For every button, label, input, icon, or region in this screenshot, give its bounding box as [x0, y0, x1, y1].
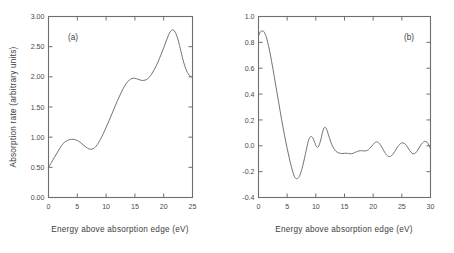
- panel-b-yticklabels: -0.4-0.20.00.20.40.60.81.0: [242, 13, 254, 202]
- x-tick-label: 20: [160, 203, 168, 211]
- panel-b-label: (b): [404, 33, 414, 42]
- panel-a-frame: [49, 17, 193, 198]
- panel-a-label: (a): [68, 33, 78, 42]
- y-tick-label: 0.4: [245, 91, 255, 99]
- x-tick-label: 20: [369, 203, 377, 211]
- y-tick-label: 0.00: [31, 194, 45, 202]
- panel-b: (b) Energy above absorption edge (eV) Di…: [227, 0, 454, 253]
- panel-a-curve: [49, 30, 193, 168]
- x-tick-label: 10: [312, 203, 320, 211]
- panel-a: (a) Energy above absorption edge (eV) Ab…: [0, 0, 227, 253]
- panel-b-xticks: [259, 17, 431, 198]
- y-tick-label: 0.2: [245, 117, 255, 125]
- panel-a-xlabel: Energy above absorption edge (eV): [51, 225, 189, 234]
- x-tick-label: 5: [285, 203, 289, 211]
- panel-b-frame: [259, 17, 431, 198]
- panel-a-xticks: [49, 17, 193, 198]
- panel-b-xlabel: Energy above absorption edge (eV): [275, 225, 413, 234]
- x-tick-label: 25: [189, 203, 197, 211]
- x-tick-label: 15: [341, 203, 349, 211]
- y-tick-label: -0.2: [242, 168, 254, 176]
- figure-container: (a) Energy above absorption edge (eV) Ab…: [0, 0, 454, 253]
- x-tick-label: 25: [398, 203, 406, 211]
- panel-a-svg: (a) Energy above absorption edge (eV) Ab…: [0, 0, 227, 253]
- y-tick-label: 1.50: [31, 104, 45, 112]
- y-tick-label: 2.00: [31, 73, 45, 81]
- x-tick-label: 10: [102, 203, 110, 211]
- y-tick-label: 2.50: [31, 43, 45, 51]
- panel-a-yticks: [49, 17, 193, 198]
- y-tick-label: 0.0: [245, 142, 255, 150]
- y-tick-label: 1.0: [245, 13, 255, 21]
- x-tick-label: 0: [257, 203, 261, 211]
- panel-a-xticklabels: 0510152025: [47, 203, 197, 211]
- x-tick-label: 30: [427, 203, 435, 211]
- y-tick-label: 0.8: [245, 39, 255, 47]
- panel-b-xticklabels: 051015202530: [257, 203, 435, 211]
- panel-b-axes: [259, 17, 431, 198]
- panel-a-axes: [49, 17, 193, 198]
- y-tick-label: 3.00: [31, 13, 45, 21]
- x-tick-label: 0: [47, 203, 51, 211]
- y-tick-label: 0.50: [31, 164, 45, 172]
- y-tick-label: -0.4: [242, 194, 254, 202]
- y-tick-label: 1.00: [31, 134, 45, 142]
- x-tick-label: 15: [131, 203, 139, 211]
- panel-a-yticklabels: 0.000.501.001.502.002.503.00: [31, 13, 45, 202]
- panel-a-ylabel: Absorption rate (arbitrary units): [9, 46, 18, 167]
- y-tick-label: 0.6: [245, 65, 255, 73]
- panel-b-curve: [259, 31, 431, 179]
- x-tick-label: 5: [75, 203, 79, 211]
- panel-b-yticks: [259, 17, 431, 198]
- panel-b-svg: (b) Energy above absorption edge (eV) Di…: [227, 0, 454, 253]
